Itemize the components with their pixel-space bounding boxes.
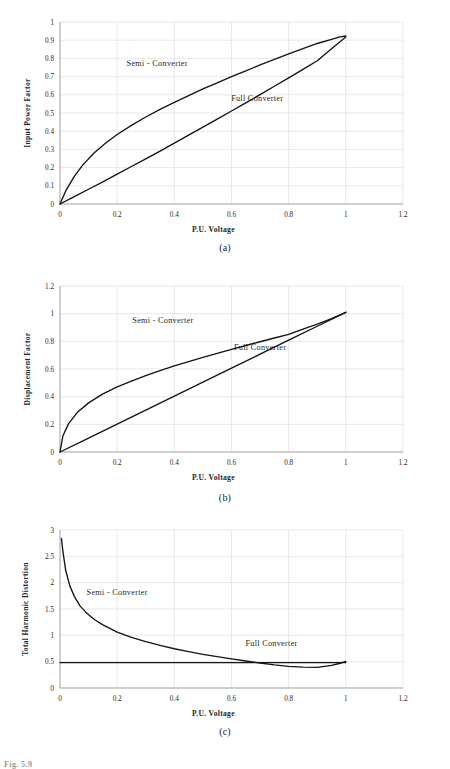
chart-panel-b: 00.20.40.60.811.200.20.40.60.811.2Displa… [0, 272, 450, 520]
plot-wrapper-b: 00.20.40.60.811.200.20.40.60.811.2Displa… [0, 272, 450, 494]
x-tick-label: 1 [344, 459, 348, 467]
chart-panel-a: 00.10.20.30.40.50.60.70.80.9100.20.40.60… [0, 6, 450, 268]
x-tick-label: 1.2 [399, 459, 408, 467]
y-tick-label: 0.3 [45, 146, 54, 154]
y-tick-label: 0 [50, 449, 54, 457]
y-tick-label: 0.1 [45, 182, 54, 190]
y-tick-label: 0.2 [45, 421, 54, 429]
y-tick-label: 2 [50, 579, 54, 587]
y-tick-label: 0.8 [45, 338, 54, 346]
x-tick-label: 0 [58, 695, 62, 703]
y-axis-title: Total Harmonic Distortion [21, 562, 30, 656]
plot-wrapper-a: 00.10.20.30.40.50.60.70.80.9100.20.40.60… [0, 6, 450, 244]
x-tick-label: 1 [344, 695, 348, 703]
y-tick-label: 1 [50, 632, 54, 640]
x-tick-label: 0.4 [170, 459, 179, 467]
x-tick-label: 1 [344, 211, 348, 219]
y-tick-label: 1 [50, 310, 54, 318]
subcaption-a: (a) [0, 242, 450, 253]
x-axis-title: P.U. Voltage [192, 709, 235, 718]
plot-wrapper-c: 00.511.522.5300.20.40.60.811.2Total Harm… [0, 520, 450, 730]
x-tick-label: 0.4 [170, 211, 179, 219]
x-tick-label: 0.6 [227, 459, 236, 467]
y-tick-label: 0 [50, 685, 54, 693]
y-tick-label: 0.9 [45, 37, 54, 45]
y-tick-label: 3 [50, 527, 54, 535]
x-axis-title: P.U. Voltage [192, 225, 235, 234]
x-tick-label: 0.6 [227, 695, 236, 703]
series-annotation-label: Full Converter [231, 94, 283, 103]
y-axis-title: Input Power Factor [23, 78, 32, 148]
series-annotation-label: Full Converter [245, 639, 297, 648]
y-tick-label: 2.5 [45, 553, 54, 561]
series-curve [60, 37, 346, 204]
series-curve [60, 312, 346, 452]
x-tick-label: 1.2 [399, 211, 408, 219]
series-curve [60, 36, 346, 204]
x-tick-label: 0.2 [113, 695, 122, 703]
x-tick-label: 0.2 [113, 211, 122, 219]
chart-svg-c: 00.511.522.5300.20.40.60.811.2Total Harm… [0, 520, 450, 730]
chart-svg-a: 00.10.20.30.40.50.60.70.80.9100.20.40.60… [0, 6, 450, 244]
y-tick-label: 0.2 [45, 164, 54, 172]
y-tick-label: 1.5 [45, 606, 54, 614]
y-tick-label: 0.8 [45, 55, 54, 63]
y-axis-title: Displacement Factor [23, 332, 32, 405]
series-curve [61, 538, 345, 667]
y-tick-label: 1.2 [45, 283, 54, 291]
gridlines [60, 530, 403, 688]
subcaption-b: (b) [0, 492, 450, 503]
x-tick-label: 0.6 [227, 211, 236, 219]
x-tick-label: 0 [58, 459, 62, 467]
y-tick-label: 0.6 [45, 366, 54, 374]
x-tick-label: 0.2 [113, 459, 122, 467]
chart-panel-c: 00.511.522.5300.20.40.60.811.2Total Harm… [0, 520, 450, 752]
figure-footer-note: Fig. 5.9 [4, 760, 32, 769]
series-annotation-label: Full Converter [234, 343, 286, 352]
x-tick-label: 1.2 [399, 695, 408, 703]
x-tick-label: 0.4 [170, 695, 179, 703]
y-tick-label: 0.5 [45, 658, 54, 666]
x-tick-label: 0.8 [284, 695, 293, 703]
y-tick-label: 1 [50, 19, 54, 27]
chart-svg-b: 00.20.40.60.811.200.20.40.60.811.2Displa… [0, 272, 450, 494]
y-tick-label: 0.4 [45, 393, 54, 401]
x-tick-label: 0.8 [284, 459, 293, 467]
x-tick-label: 0 [58, 211, 62, 219]
x-tick-label: 0.8 [284, 211, 293, 219]
series-annotation-label: Semi - Converter [132, 316, 193, 325]
y-tick-label: 0.7 [45, 73, 54, 81]
series-annotation-label: Semi - Converter [87, 588, 148, 597]
y-tick-label: 0.6 [45, 91, 54, 99]
y-tick-label: 0.5 [45, 110, 54, 118]
series-annotation-label: Semi - Converter [127, 59, 188, 68]
subcaption-c: (c) [0, 726, 450, 737]
y-tick-label: 0 [50, 201, 54, 209]
x-axis-title: P.U. Voltage [192, 473, 235, 482]
y-tick-label: 0.4 [45, 128, 54, 136]
